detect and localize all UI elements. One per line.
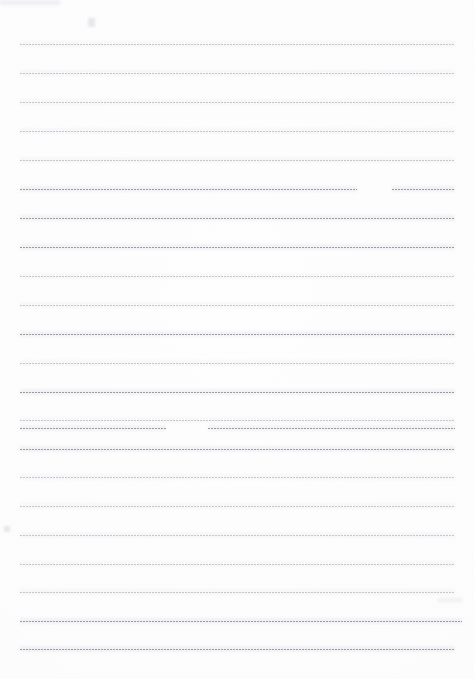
left-margin-speck xyxy=(4,526,10,532)
rule-line-16-seg-1 xyxy=(20,427,166,429)
rule-line-14 xyxy=(20,419,455,421)
rule-line-12 xyxy=(20,362,455,364)
rule-line-7 xyxy=(20,217,455,219)
rule-line-5 xyxy=(20,159,455,161)
rule-line-3 xyxy=(20,101,455,103)
rule-line-2 xyxy=(20,72,455,74)
rule-line-6-seg-1 xyxy=(20,188,357,190)
rule-line-9 xyxy=(20,275,455,277)
top-faint-speck xyxy=(88,18,95,27)
rule-line-15 xyxy=(20,448,455,450)
rule-line-16-seg-2 xyxy=(208,427,455,429)
rule-line-17 xyxy=(20,476,455,478)
right-edge-darkening xyxy=(438,598,462,602)
rule-line-18 xyxy=(20,505,455,507)
rule-line-23 xyxy=(20,648,455,650)
rule-line-13 xyxy=(20,391,455,393)
rule-line-6-seg-2 xyxy=(392,188,455,190)
rule-line-20 xyxy=(20,563,455,565)
rule-line-22 xyxy=(20,620,462,622)
rule-line-4 xyxy=(20,130,455,132)
top-left-edge-shadow xyxy=(0,0,60,5)
rule-line-8 xyxy=(20,246,455,248)
rule-line-10 xyxy=(20,304,455,306)
rule-line-1 xyxy=(20,43,455,45)
scanned-page xyxy=(0,0,474,679)
rule-line-11 xyxy=(20,333,455,335)
rule-line-21 xyxy=(20,591,455,593)
rule-line-19 xyxy=(20,534,455,536)
